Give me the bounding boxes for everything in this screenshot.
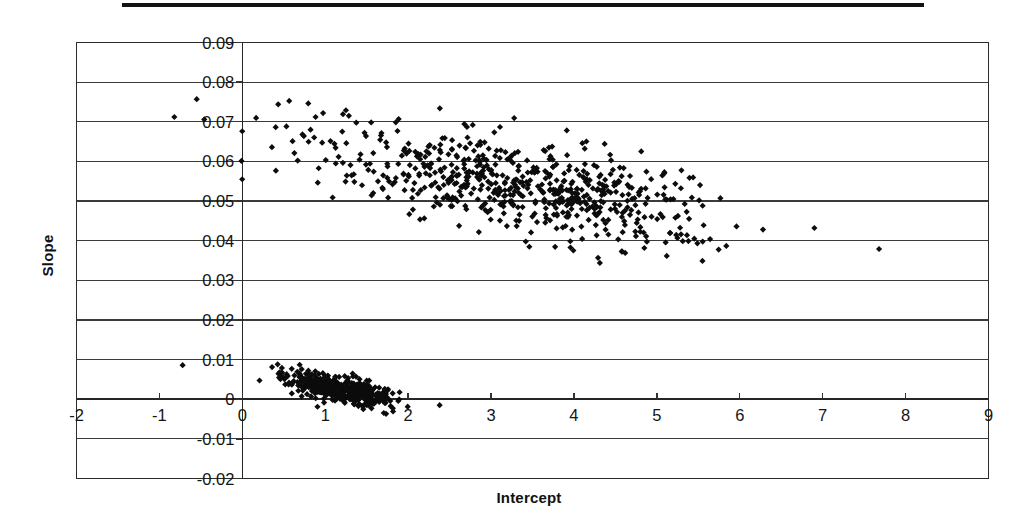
data-point <box>339 128 345 134</box>
data-point <box>289 366 295 372</box>
data-point <box>440 174 446 180</box>
data-point <box>313 114 319 120</box>
data-point <box>180 362 186 368</box>
data-point <box>346 113 352 119</box>
data-point <box>405 140 411 146</box>
data-point <box>643 169 649 175</box>
data-point <box>689 194 695 200</box>
data-point <box>433 194 439 200</box>
data-point <box>876 246 882 252</box>
data-point <box>579 206 585 212</box>
data-point <box>357 151 363 157</box>
gridlines-group <box>77 43 989 479</box>
data-point <box>468 191 474 197</box>
data-point <box>760 226 766 232</box>
plot-frame <box>77 43 989 479</box>
data-point <box>486 146 492 152</box>
data-point <box>407 162 413 168</box>
data-point <box>370 150 376 156</box>
y-tick-label: -0.01 <box>197 430 235 448</box>
data-point <box>275 101 281 107</box>
data-point <box>602 141 608 147</box>
data-point <box>492 162 498 168</box>
data-point <box>627 212 633 218</box>
x-axis-title: Intercept <box>434 489 624 506</box>
data-point <box>384 144 390 150</box>
x-tick-label: 5 <box>652 406 661 424</box>
data-point <box>672 181 678 187</box>
data-point <box>602 227 608 233</box>
data-points-group <box>171 96 882 417</box>
data-point <box>684 232 690 238</box>
data-point <box>504 223 510 229</box>
data-point <box>617 165 623 171</box>
data-point <box>239 128 245 134</box>
data-point <box>171 114 177 120</box>
figure-page: -0.02-0.0100.010.020.030.040.050.060.070… <box>0 0 1028 525</box>
data-point <box>526 244 532 250</box>
data-point <box>437 402 443 408</box>
data-point <box>701 222 707 228</box>
data-point <box>307 127 313 133</box>
data-point <box>684 209 690 215</box>
data-point <box>311 134 317 140</box>
data-point <box>579 187 585 193</box>
x-tick-label: -2 <box>69 406 84 424</box>
data-point <box>578 223 584 229</box>
plot-border <box>77 43 989 479</box>
data-point <box>445 151 451 157</box>
data-point <box>467 140 473 146</box>
data-point <box>488 216 494 222</box>
data-point <box>368 119 374 125</box>
data-point <box>239 176 245 182</box>
data-point <box>569 227 575 233</box>
data-point <box>390 390 396 396</box>
data-point <box>523 238 529 244</box>
data-point <box>365 167 371 173</box>
data-point <box>654 191 660 197</box>
data-point <box>696 197 702 203</box>
data-point <box>516 163 522 169</box>
data-point <box>615 236 621 242</box>
data-point <box>554 225 560 231</box>
y-tick-label: 0.01 <box>202 351 234 369</box>
data-point <box>340 160 346 166</box>
data-point <box>256 377 262 383</box>
x-tick-label: 6 <box>735 406 744 424</box>
data-point <box>682 201 688 207</box>
data-point <box>396 389 402 395</box>
data-point <box>353 120 359 126</box>
y-tick-label: 0.09 <box>202 34 234 52</box>
data-point <box>343 140 349 146</box>
data-point <box>564 152 570 158</box>
y-tick-label: 0.07 <box>202 113 234 131</box>
data-point <box>574 212 580 218</box>
data-point <box>437 142 443 148</box>
data-point <box>471 185 477 191</box>
data-point <box>319 140 325 146</box>
data-point <box>497 217 503 223</box>
data-point <box>641 245 647 251</box>
data-point <box>678 185 684 191</box>
data-point <box>289 390 295 396</box>
data-point <box>295 157 301 163</box>
data-point <box>320 110 326 116</box>
data-point <box>525 169 531 175</box>
data-point <box>238 158 244 164</box>
data-point <box>586 217 592 223</box>
data-point <box>686 216 692 222</box>
data-point <box>582 146 588 152</box>
data-point <box>700 239 706 245</box>
data-point <box>678 167 684 173</box>
data-point <box>275 361 281 367</box>
data-point <box>363 162 369 168</box>
data-point <box>617 202 623 208</box>
data-point <box>605 231 611 237</box>
x-tick-label: -1 <box>152 406 167 424</box>
data-point <box>344 172 350 178</box>
data-point <box>612 201 618 207</box>
data-point <box>462 145 468 151</box>
data-point <box>291 150 297 156</box>
data-point <box>644 195 650 201</box>
x-tick-label: 7 <box>818 406 827 424</box>
